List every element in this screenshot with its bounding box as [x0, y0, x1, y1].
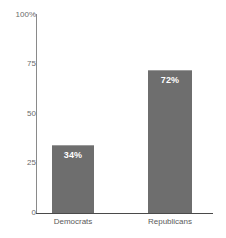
x-axis-line: [36, 213, 213, 214]
x-axis-category-label-republicans: Republicans: [135, 217, 205, 226]
y-axis-tick-label-0: 0: [2, 209, 36, 217]
y-axis-tick-label-100: 100%: [2, 11, 36, 19]
y-axis-tick-label-75: 75: [2, 60, 36, 68]
bar-republicans[interactable]: 72%: [148, 70, 192, 213]
bar-democrats[interactable]: 34%: [52, 145, 94, 213]
y-axis-line: [36, 14, 37, 214]
bar-chart: 100% 75 50 25 0 34% 72% Democrats Republ…: [0, 0, 226, 238]
y-axis-tick-label-50: 50: [2, 110, 36, 118]
x-axis-category-label-democrats: Democrats: [39, 217, 107, 226]
bar-value-label-republicans: 72%: [148, 76, 192, 85]
y-axis-tick-label-25: 25: [2, 159, 36, 167]
bar-value-label-democrats: 34%: [52, 151, 94, 160]
